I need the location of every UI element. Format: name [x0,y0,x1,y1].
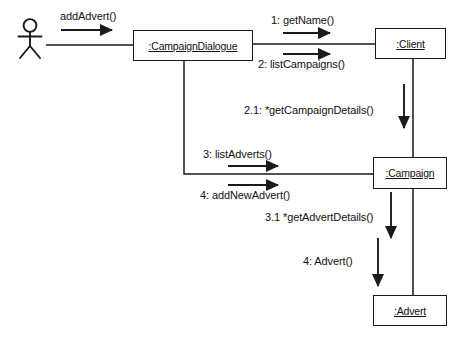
actor-left-leg-line [20,46,30,58]
message-label-get-name: 1: getName() [271,14,334,26]
message-label-list-adverts: 3: listAdverts() [203,148,272,160]
message-label-list-campaigns: 2: listCampaigns() [258,58,345,70]
actor-head-icon [24,19,37,32]
object-box-advert[interactable]: :Advert [373,295,447,326]
object-box-campaign-dialogue[interactable]: :CampaignDialogue [133,30,253,61]
message-label-add-new-advert: 4: addNewAdvert() [200,189,290,201]
object-label-campaign: :Campaign [386,167,435,179]
message-label-add-advert: addAdvert() [60,10,116,22]
actor-stick-figure [19,19,42,58]
object-label-advert: :Advert [394,305,426,317]
object-box-client[interactable]: :Client [375,28,446,59]
uml-collaboration-diagram-canvas: :CampaignDialogue :Client :Campaign :Adv… [0,0,470,349]
actor-right-leg-line [30,46,40,58]
object-box-campaign[interactable]: :Campaign [373,157,447,189]
message-label-get-campaign-details: 2.1: *getCampaignDetails() [244,104,373,116]
message-label-get-advert-details: 3.1 *getAdvertDetails() [265,211,373,223]
message-label-advert-create: 4: Advert() [303,255,353,267]
object-label-campaign-dialogue: :CampaignDialogue [149,40,238,52]
object-label-client: :Client [396,38,424,50]
